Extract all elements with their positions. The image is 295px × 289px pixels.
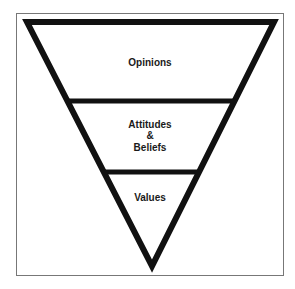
layer-label-ampersand: &	[146, 130, 153, 141]
layer-label-values: Values	[134, 192, 166, 203]
layer-label-attitudes: Attitudes	[128, 119, 172, 130]
layer-label-opinions: Opinions	[128, 57, 172, 68]
layer-label-beliefs: Beliefs	[134, 142, 167, 153]
inverted-pyramid-diagram: Opinions Attitudes & Beliefs Values	[0, 0, 295, 289]
